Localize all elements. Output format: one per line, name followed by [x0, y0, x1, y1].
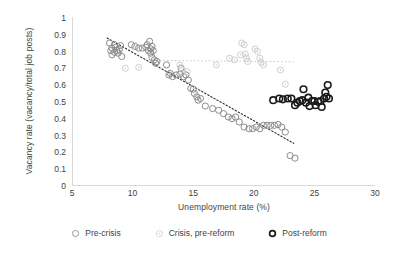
legend-item-post-reform[interactable]: Post-reform — [268, 228, 326, 238]
data-point-center — [240, 54, 242, 56]
x-axis-line — [72, 185, 375, 186]
legend-label: Pre-crisis — [85, 228, 120, 238]
series-crisis-pre-reform — [122, 40, 288, 87]
open-circle-icon — [71, 229, 80, 238]
data-point-center — [247, 61, 249, 63]
legend-item-crisis-pre-reform[interactable]: Crisis, pre-reform — [155, 228, 235, 238]
data-point — [132, 43, 138, 49]
x-tick-label: 5 — [60, 188, 84, 198]
y-tick-label: 0.2 — [44, 147, 66, 157]
x-tick-label: 30 — [363, 188, 387, 198]
trendline-crisis-pre-reform — [152, 60, 294, 62]
y-tick-label: 0.3 — [44, 131, 66, 141]
data-point — [185, 77, 191, 83]
y-tick-label: 0.5 — [44, 97, 66, 107]
y-tick-label: 0.4 — [44, 114, 66, 124]
bold-circle-icon — [268, 229, 277, 238]
data-point — [282, 129, 288, 135]
data-point-center — [280, 69, 282, 71]
y-tick-label: 1 — [44, 13, 66, 23]
x-tick-label: 25 — [302, 188, 326, 198]
data-point-center — [215, 64, 217, 66]
data-point — [324, 82, 331, 89]
dotted-circle-icon — [155, 229, 164, 238]
data-point-center — [243, 44, 245, 46]
y-axis-title: Vacancy rate (vacancy/total job posts) — [24, 16, 34, 186]
data-point-center — [229, 57, 231, 59]
data-point-center — [125, 67, 127, 69]
data-point-center — [263, 64, 265, 66]
legend-item-pre-crisis[interactable]: Pre-crisis — [71, 228, 120, 238]
data-point — [225, 114, 231, 120]
scatter-chart: Vacancy rate (vacancy/total job posts) 1… — [0, 0, 398, 256]
data-point-center — [181, 69, 183, 71]
data-point — [253, 124, 259, 130]
y-tick-label: 0.9 — [44, 30, 66, 40]
legend-label: Post-reform — [282, 228, 326, 238]
data-series-layer — [72, 17, 375, 185]
data-point-center — [285, 83, 287, 85]
data-point — [128, 42, 134, 48]
data-point — [236, 119, 242, 125]
legend-label: Crisis, pre-reform — [169, 228, 235, 238]
series-post-reform — [270, 82, 332, 110]
x-axis-title: Unemployment rate (%) — [72, 202, 376, 212]
data-point — [119, 53, 125, 59]
data-point-center — [138, 67, 140, 69]
data-point-center — [245, 53, 247, 55]
x-tick-label: 10 — [121, 188, 145, 198]
data-point — [292, 155, 298, 161]
data-point — [300, 86, 307, 93]
chart-legend: Pre-crisis Crisis, pre-reform Post-refor… — [0, 228, 398, 238]
data-point — [209, 105, 215, 111]
y-tick-label: 0.7 — [44, 63, 66, 73]
data-point-center — [259, 57, 261, 59]
data-point-center — [179, 64, 181, 66]
y-tick-label: 0.1 — [44, 164, 66, 174]
data-point-center — [257, 51, 259, 53]
x-tick-label: 15 — [181, 188, 205, 198]
data-point — [202, 103, 208, 109]
y-tick-label: 0.6 — [44, 80, 66, 90]
data-point — [229, 116, 235, 122]
data-point — [163, 62, 169, 68]
x-tick-label: 20 — [242, 188, 266, 198]
data-point-center — [186, 71, 188, 73]
data-point — [257, 126, 263, 132]
plot-area — [72, 17, 375, 185]
data-point — [249, 126, 255, 132]
data-point-center — [234, 59, 236, 61]
y-tick-label: 0.8 — [44, 47, 66, 57]
